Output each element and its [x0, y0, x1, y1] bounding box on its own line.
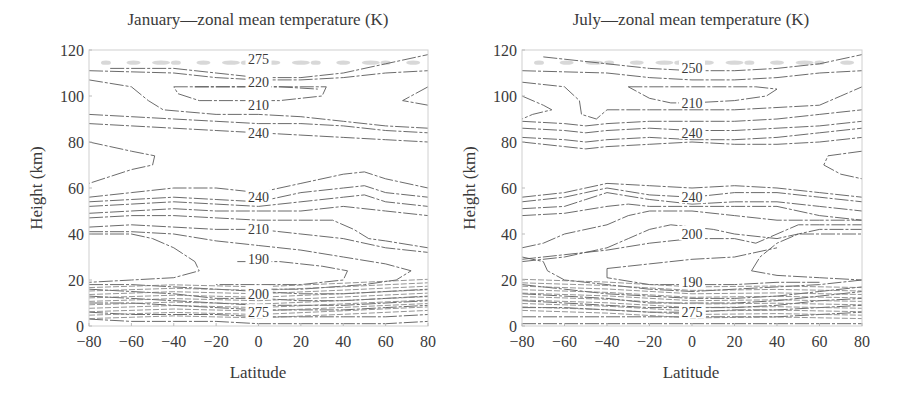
- isotherm: [752, 234, 863, 271]
- y-tick-label: 20: [68, 272, 84, 289]
- january-contour-plot: January—zonal mean temperature (K) Latit…: [0, 0, 448, 400]
- contour-label: 210: [682, 96, 703, 111]
- contour-label: 240: [248, 190, 269, 205]
- y-tick-label: 100: [60, 88, 84, 105]
- y-tick-label: 40: [501, 226, 517, 243]
- y-tick-label: 60: [68, 180, 84, 197]
- y-tick-label: 0: [76, 318, 84, 335]
- isotherm: [607, 269, 820, 285]
- x-tick-label: 80: [854, 333, 870, 350]
- isotherm: [89, 206, 428, 215]
- x-tick-label: −40: [161, 333, 186, 350]
- x-axis-label: Latitude: [230, 363, 287, 382]
- isotherm: [89, 142, 155, 183]
- x-tick-label: 40: [769, 333, 785, 350]
- y-ticks: 020406080100120: [493, 42, 525, 335]
- isotherm: [89, 234, 199, 282]
- x-tick-label: −60: [552, 333, 577, 350]
- chart-title: January—zonal mean temperature (K): [127, 10, 388, 29]
- contour-label: 210: [248, 98, 269, 113]
- contour-label: 240: [682, 190, 703, 205]
- contour-label: 200: [682, 227, 703, 242]
- contour-label: 275: [682, 305, 703, 320]
- x-axis-label: Latitude: [663, 363, 720, 382]
- x-tick-label: 60: [378, 333, 394, 350]
- x-tick-label: −80: [76, 333, 101, 350]
- y-tick-label: 120: [60, 42, 84, 59]
- x-ticks: −80−60−40−20020406080: [76, 323, 436, 350]
- contour-labels: 275220210240240210190200275: [246, 51, 272, 320]
- isotherm: [522, 204, 862, 220]
- contour-label: 240: [682, 126, 703, 141]
- isotherm: [824, 151, 862, 179]
- contour-label: 240: [248, 126, 269, 141]
- x-tick-label: −60: [119, 333, 144, 350]
- chart-title: July—zonal mean temperature (K): [573, 10, 810, 29]
- x-tick-label: −20: [637, 333, 662, 350]
- y-axis-label: Height (km): [27, 146, 46, 230]
- contour-label: 275: [248, 52, 269, 67]
- isotherm: [752, 271, 863, 280]
- x-tick-label: 20: [293, 333, 309, 350]
- y-axis-label: Height (km): [460, 146, 479, 230]
- contour-label: 220: [248, 75, 269, 90]
- isotherm: [522, 96, 552, 119]
- y-tick-label: 80: [501, 134, 517, 151]
- contour-label: 200: [248, 287, 269, 302]
- y-tick-label: 20: [501, 272, 517, 289]
- contour-label: 190: [682, 275, 703, 290]
- y-tick-label: 40: [68, 226, 84, 243]
- y-tick-label: 120: [493, 42, 517, 59]
- january-chart-panel: January—zonal mean temperature (K) Latit…: [0, 0, 448, 400]
- contour-label: 250: [682, 61, 703, 76]
- x-tick-label: 20: [727, 333, 743, 350]
- y-tick-label: 60: [501, 180, 517, 197]
- isotherm: [403, 87, 428, 105]
- x-tick-label: 0: [688, 333, 696, 350]
- july-contour-plot: July—zonal mean temperature (K) Latitude…: [433, 0, 881, 400]
- x-tick-label: 40: [335, 333, 351, 350]
- contour-label: 190: [248, 252, 269, 267]
- contour-label: 275: [248, 305, 269, 320]
- x-tick-label: −20: [204, 333, 229, 350]
- july-chart-panel: July—zonal mean temperature (K) Latitude…: [433, 0, 881, 400]
- isotherm: [216, 262, 347, 285]
- x-tick-label: −40: [594, 333, 619, 350]
- contour-lines: [89, 55, 428, 324]
- x-tick-label: 60: [812, 333, 828, 350]
- y-tick-label: 100: [493, 88, 517, 105]
- y-ticks: 020406080100120: [60, 42, 92, 335]
- x-ticks: −80−60−40−20020406080: [509, 323, 870, 350]
- x-tick-label: 0: [255, 333, 263, 350]
- contour-label: 210: [248, 222, 269, 237]
- x-tick-label: −80: [509, 333, 534, 350]
- y-tick-label: 80: [68, 134, 84, 151]
- y-tick-label: 0: [509, 318, 517, 335]
- contour-labels: 250210240240200190275: [679, 60, 705, 320]
- isotherm: [607, 248, 777, 269]
- isotherm: [522, 110, 862, 126]
